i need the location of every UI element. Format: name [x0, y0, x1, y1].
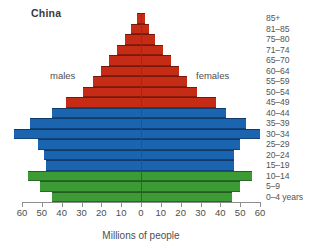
bar-fill: [141, 139, 240, 150]
bar-fill: [141, 129, 260, 140]
x-axis-tick-labels: 6050403020100102030405060: [0, 207, 335, 220]
bar-fill: [141, 87, 197, 98]
series-label-males: males: [50, 70, 75, 81]
bar-females: [141, 66, 179, 77]
axis-tick-label: 0: [138, 207, 143, 218]
bar-males: [46, 160, 141, 171]
axis-tick-label: 50: [37, 207, 48, 218]
age-group-label: 30–34: [266, 129, 335, 140]
bar-females: [141, 34, 155, 45]
age-group-label: 71–74: [266, 45, 335, 56]
bar-fill: [109, 55, 141, 66]
bar-fill: [125, 34, 141, 45]
bar-females: [141, 87, 197, 98]
bar-females: [141, 76, 187, 87]
bar-fill: [101, 66, 141, 77]
bar-fill: [141, 45, 163, 56]
axis-tick-label: 60: [17, 207, 28, 218]
bar-fill: [83, 87, 141, 98]
bar-fill: [44, 150, 141, 161]
x-axis-label: Millions of people: [0, 230, 282, 241]
bar-fill: [141, 108, 226, 119]
bar-fill: [131, 24, 141, 35]
bar-fill: [30, 118, 141, 129]
bar-males: [83, 87, 141, 98]
age-group-label: 5–9: [266, 181, 335, 192]
age-group-label: 55–59: [266, 76, 335, 87]
bar-males: [40, 181, 141, 192]
bar-females: [141, 45, 163, 56]
axis-tick-label: 30: [195, 207, 206, 218]
bar-fill: [141, 150, 234, 161]
bar-males: [44, 150, 141, 161]
bar-females: [141, 97, 216, 108]
bar-fill: [38, 139, 141, 150]
bar-females: [141, 139, 240, 150]
center-axis-line: [141, 13, 142, 202]
bar-fill: [40, 181, 141, 192]
bar-fill: [52, 108, 141, 119]
bar-males: [28, 171, 141, 182]
bar-males: [66, 97, 141, 108]
bar-males: [14, 129, 141, 140]
age-group-label: 0–4 years: [266, 192, 335, 203]
bar-males: [131, 24, 141, 35]
bar-females: [141, 160, 234, 171]
axis-tick-label: 20: [96, 207, 107, 218]
bar-fill: [141, 24, 149, 35]
bar-females: [141, 108, 226, 119]
bar-females: [141, 171, 252, 182]
bar-males: [52, 108, 141, 119]
age-group-label: 10–14: [266, 171, 335, 182]
axis-tick-label: 10: [156, 207, 167, 218]
axis-tick-label: 10: [116, 207, 127, 218]
axis-tick-label: 40: [56, 207, 67, 218]
bar-females: [141, 13, 145, 24]
age-group-label: 81–85: [266, 24, 335, 35]
age-group-label: 85+: [266, 13, 335, 24]
age-group-label: 35–39: [266, 118, 335, 129]
axis-tick-label: 60: [255, 207, 266, 218]
axis-tick-label: 50: [235, 207, 246, 218]
bar-males: [93, 76, 141, 87]
age-group-label: 20–24: [266, 150, 335, 161]
bar-fill: [141, 118, 246, 129]
bar-females: [141, 24, 149, 35]
bar-fill: [141, 171, 252, 182]
bar-fill: [117, 45, 141, 56]
bar-fill: [52, 192, 141, 203]
age-group-label: 60–64: [266, 66, 335, 77]
bar-fill: [141, 97, 216, 108]
bar-fill: [141, 160, 234, 171]
age-group-label: 65–70: [266, 55, 335, 66]
bar-females: [141, 192, 232, 203]
age-group-label: 75–80: [266, 34, 335, 45]
bar-males: [109, 55, 141, 66]
axis-tick-label: 30: [76, 207, 87, 218]
bar-fill: [141, 181, 240, 192]
bar-females: [141, 118, 246, 129]
bar-fill: [141, 192, 232, 203]
age-group-label: 45–49: [266, 97, 335, 108]
bar-fill: [141, 66, 179, 77]
axis-tick-label: 40: [215, 207, 226, 218]
bar-males: [125, 34, 141, 45]
age-group-label: 40–44: [266, 108, 335, 119]
bar-males: [30, 118, 141, 129]
bar-fill: [46, 160, 141, 171]
bar-females: [141, 150, 234, 161]
plot-area: [22, 13, 260, 202]
bar-fill: [141, 76, 187, 87]
bar-males: [38, 139, 141, 150]
bar-males: [101, 66, 141, 77]
axis-tick-label: 20: [175, 207, 186, 218]
age-group-label: 25–29: [266, 139, 335, 150]
bar-fill: [141, 34, 155, 45]
bar-fill: [141, 55, 171, 66]
bar-fill: [93, 76, 141, 87]
age-group-label: 15–19: [266, 160, 335, 171]
bar-females: [141, 181, 240, 192]
age-group-labels: 0–4 years5–910–1415–1920–2425–2930–3435–…: [266, 13, 335, 202]
age-group-label: 50–54: [266, 87, 335, 98]
bar-fill: [14, 129, 141, 140]
